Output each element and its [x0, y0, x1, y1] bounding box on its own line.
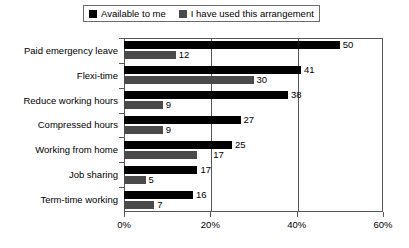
bar-value-label: 41: [301, 66, 315, 76]
bar-rows: 501241303892792517175167: [124, 38, 383, 212]
y-axis-category-label: Reduce working hours: [0, 88, 121, 113]
legend-swatch-gray-icon: [179, 10, 187, 18]
x-tick-mark-0: [124, 212, 125, 217]
bar-available: [124, 141, 232, 149]
bar-chart: Available to me I have used this arrange…: [0, 0, 409, 248]
bar-value-label: 12: [176, 51, 190, 61]
chart-legend: Available to me I have used this arrange…: [83, 5, 320, 22]
bar-value-label: 9: [163, 125, 171, 135]
bar-value-label: 50: [340, 41, 354, 51]
bar-line: 12: [124, 51, 383, 59]
bar-line: 38: [124, 91, 383, 99]
bar-used: [124, 51, 176, 59]
legend-entry-available: Available to me: [89, 9, 166, 19]
bar-used: [124, 76, 254, 84]
bar-value-label: 5: [146, 175, 154, 185]
legend-label-available: Available to me: [101, 9, 166, 19]
bar-available: [124, 166, 197, 174]
bar-line: 25: [124, 141, 383, 149]
y-tick-mark: [119, 38, 124, 39]
bar-group: 4130: [124, 63, 383, 88]
legend-label-used: I have used this arrangement: [191, 9, 314, 19]
bar-used: [124, 126, 163, 134]
bar-line: 17: [124, 166, 383, 174]
bar-line: 27: [124, 116, 383, 124]
bar-value-label: 30: [254, 76, 268, 86]
bar-available: [124, 91, 288, 99]
bar-value-label: 16: [193, 190, 207, 200]
y-tick-mark: [119, 187, 124, 188]
bar-used: [124, 151, 197, 159]
bar-used: [124, 101, 163, 109]
bar-value-label: 27: [241, 115, 255, 125]
y-axis-category-label: Job sharing: [0, 162, 121, 187]
bar-available: [124, 116, 241, 124]
bar-value-label: 17: [197, 165, 211, 175]
y-axis-category-label: Flexi-time: [0, 63, 121, 88]
x-axis-label: 20%: [201, 219, 220, 230]
bar-used: [124, 176, 146, 184]
bar-value-label: 25: [232, 140, 246, 150]
bar-line: 50: [124, 41, 383, 49]
bar-group: 175: [124, 162, 383, 187]
bar-available: [124, 41, 340, 49]
y-axis-category-label: Paid emergency leave: [0, 38, 121, 63]
bar-available: [124, 191, 193, 199]
bar-group: 167: [124, 187, 383, 212]
bar-group: 5012: [124, 38, 383, 63]
y-tick-mark: [119, 113, 124, 114]
bar-group: 2517: [124, 137, 383, 162]
bar-group: 279: [124, 113, 383, 138]
bar-line: 30: [124, 76, 383, 84]
y-tick-mark: [119, 162, 124, 163]
bar-group: 389: [124, 88, 383, 113]
bar-value-label: 7: [154, 200, 162, 210]
x-axis-label: 40%: [287, 219, 306, 230]
y-axis-category-label: Working from home: [0, 137, 121, 162]
legend-entry-used: I have used this arrangement: [179, 9, 314, 19]
y-axis-category-label: Term-time working: [0, 187, 121, 212]
bar-line: 9: [124, 126, 383, 134]
bar-line: 5: [124, 176, 383, 184]
bar-line: 17: [124, 151, 383, 159]
y-axis-category-label: Compressed hours: [0, 113, 121, 138]
bar-value-label: 38: [288, 90, 302, 100]
x-axis-label: 60%: [373, 219, 392, 230]
y-tick-mark: [119, 63, 124, 64]
bar-line: 41: [124, 66, 383, 74]
bar-used: [124, 201, 154, 209]
x-tick-mark-2: [297, 212, 298, 217]
bar-line: 9: [124, 101, 383, 109]
y-tick-mark: [119, 88, 124, 89]
bar-value-label: 17: [210, 150, 224, 160]
bar-line: 16: [124, 191, 383, 199]
legend-swatch-black-icon: [89, 10, 97, 18]
bar-line: 7: [124, 201, 383, 209]
bar-available: [124, 66, 301, 74]
x-tick-mark-1: [210, 212, 211, 217]
x-tick-mark-3: [383, 212, 384, 217]
y-tick-mark: [119, 137, 124, 138]
x-axis-label: 0%: [117, 219, 131, 230]
y-axis-category-labels: Paid emergency leaveFlexi-timeReduce wor…: [0, 38, 121, 212]
bar-value-label: 9: [163, 100, 171, 110]
